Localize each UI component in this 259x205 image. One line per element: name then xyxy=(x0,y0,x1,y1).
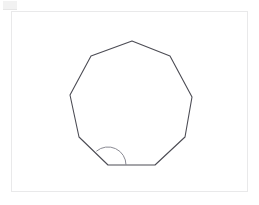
figure-canvas xyxy=(0,0,259,205)
figure-root xyxy=(0,0,259,205)
nonagon-outline xyxy=(70,41,192,165)
